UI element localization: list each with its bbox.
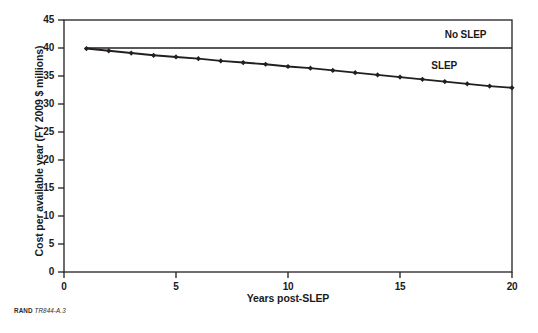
- x-axis-tick-label: 20: [497, 281, 527, 292]
- y-axis-tick-label: 30: [28, 98, 54, 109]
- data-point-marker: [465, 81, 470, 86]
- x-axis-tick-label: 0: [49, 281, 79, 292]
- data-point-marker: [106, 48, 111, 53]
- x-axis-tick-label: 5: [161, 281, 191, 292]
- data-point-marker: [442, 79, 447, 84]
- source-org: RAND: [14, 307, 33, 314]
- source-id: TR844-A.3: [34, 307, 65, 314]
- data-point-marker: [420, 77, 425, 82]
- y-axis-tick-label: 0: [28, 266, 54, 277]
- figure-source-note: RAND TR844-A.3: [14, 307, 66, 314]
- y-axis-tick-label: 35: [28, 70, 54, 81]
- y-axis-tick-label: 25: [28, 126, 54, 137]
- data-point-marker: [509, 85, 514, 90]
- data-point-marker: [196, 56, 201, 61]
- x-axis-tick-label: 15: [385, 281, 415, 292]
- data-point-marker: [285, 64, 290, 69]
- data-point-marker: [487, 83, 492, 88]
- x-axis-title: Years post-SLEP: [64, 292, 512, 304]
- chart-canvas: [0, 0, 538, 333]
- plot-frame: [64, 20, 512, 272]
- data-point-marker: [308, 66, 313, 71]
- data-point-marker: [330, 68, 335, 73]
- series-label-no-slep: No SLEP: [445, 29, 487, 40]
- data-point-marker: [173, 54, 178, 59]
- y-axis-tick-label: 15: [28, 182, 54, 193]
- data-point-marker: [375, 72, 380, 77]
- figure-container: Cost per available year (FY 2009 $ milli…: [0, 0, 538, 333]
- y-axis-tick-label: 5: [28, 238, 54, 249]
- data-point-marker: [397, 75, 402, 80]
- y-axis-tick-label: 45: [28, 14, 54, 25]
- data-point-marker: [84, 46, 89, 51]
- data-point-marker: [263, 62, 268, 67]
- data-point-marker: [353, 70, 358, 75]
- data-point-marker: [241, 60, 246, 65]
- data-point-marker: [129, 50, 134, 55]
- y-axis-tick-label: 40: [28, 42, 54, 53]
- y-axis-tick-label: 10: [28, 210, 54, 221]
- series-label-slep: SLEP: [431, 60, 457, 71]
- data-point-marker: [151, 53, 156, 58]
- x-axis-tick-label: 10: [273, 281, 303, 292]
- y-axis-tick-label: 20: [28, 154, 54, 165]
- data-point-marker: [218, 58, 223, 63]
